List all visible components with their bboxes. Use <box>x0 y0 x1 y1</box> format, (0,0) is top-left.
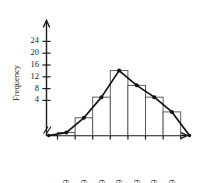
y-tick-label-16: 16 <box>31 59 40 69</box>
histogram-bar <box>93 97 111 135</box>
x-axis-label: 40-49 <box>79 180 89 183</box>
x-axis-label: 60-69 <box>114 180 124 183</box>
histogram-frequency-polygon-chart: Frequency 4 8 12 16 20 24 <box>0 0 199 183</box>
x-axis-label: 30-39 <box>61 180 71 183</box>
axis-break-icon <box>44 127 52 134</box>
data-point-marker <box>64 131 68 135</box>
data-point-marker <box>188 134 191 137</box>
data-point-marker <box>170 110 174 114</box>
x-axis-label: 50-59 <box>97 180 107 183</box>
y-tick-label-24: 24 <box>31 35 40 45</box>
data-point-marker <box>82 116 86 120</box>
chart-svg: Frequency 4 8 12 16 20 24 <box>0 0 199 183</box>
y-axis-ticks: 4 8 12 16 20 24 <box>31 35 51 104</box>
y-tick-label-8: 8 <box>35 83 39 93</box>
data-point-marker <box>47 134 50 137</box>
histogram-bar <box>75 118 93 136</box>
x-axis-label: 90-99 <box>167 180 177 183</box>
data-point-marker <box>117 69 121 73</box>
y-axis-title: Frequency <box>11 64 21 101</box>
x-axis-label: 70-79 <box>132 180 142 183</box>
data-point-marker <box>135 83 139 87</box>
data-point-marker <box>152 95 156 99</box>
x-axis-labels: 30-3940-4950-5960-6970-7980-8990-99 <box>61 180 177 183</box>
data-point-marker <box>100 95 104 99</box>
histogram-bar <box>128 85 146 135</box>
x-axis-label: 80-89 <box>149 180 159 183</box>
y-tick-label-20: 20 <box>31 47 40 57</box>
histogram-bar <box>163 112 181 136</box>
y-tick-label-4: 4 <box>35 94 40 104</box>
y-tick-label-12: 12 <box>31 71 40 81</box>
